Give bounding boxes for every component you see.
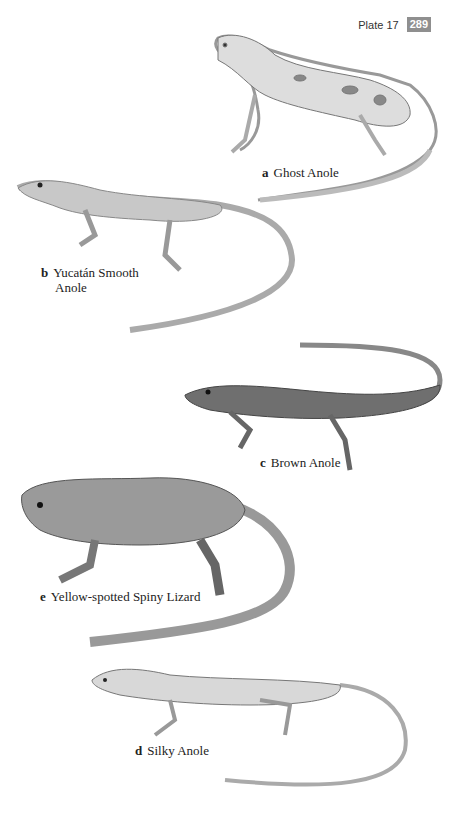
caption-yucatan-smooth-anole: bYucatán Smooth Anole <box>41 265 139 295</box>
yellow-spotted-spiny-lizard-illustration <box>22 478 290 642</box>
brown-anole-illustration <box>185 345 440 470</box>
caption-yellow-spotted-spiny-lizard: eYellow-spotted Spiny Lizard <box>40 589 200 604</box>
silky-anole-illustration <box>92 669 406 784</box>
caption-silky-anole: dSilky Anole <box>135 743 209 758</box>
caption-brown-anole: cBrown Anole <box>260 455 340 470</box>
yucatan-smooth-anole-illustration <box>18 181 292 330</box>
caption-ghost-anole: aGhost Anole <box>262 165 339 180</box>
plate-illustrations <box>0 0 468 817</box>
